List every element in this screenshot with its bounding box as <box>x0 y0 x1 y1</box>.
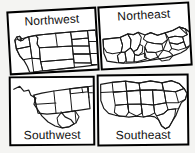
northwest-region-map <box>7 22 100 75</box>
southwest-region-map <box>9 78 96 133</box>
northeast-region-map <box>100 19 192 70</box>
panel-northeast[interactable]: Northeast <box>97 1 192 70</box>
regions-figure: Northwest <box>0 0 195 153</box>
panel-southwest[interactable]: Southwest <box>9 76 96 147</box>
southeast-region-map <box>99 76 190 135</box>
panel-southeast[interactable]: Southeast <box>97 74 190 147</box>
panel-northwest[interactable]: Northwest <box>6 7 99 76</box>
